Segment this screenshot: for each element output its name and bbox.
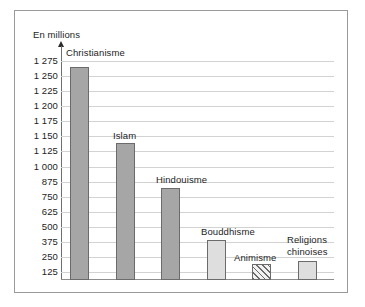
gridline-250	[61, 257, 334, 258]
bar-hindouisme[interactable]	[161, 188, 180, 280]
x-axis-line	[61, 279, 334, 280]
y-tick-label-250: 250	[2, 251, 58, 262]
y-tick-label-1200: 1 200	[2, 100, 58, 111]
gridline-1275	[61, 61, 334, 62]
y-tick-label-125: 125	[2, 266, 58, 277]
y-tick-label-875: 875	[2, 176, 58, 187]
bar-religions-chinoises[interactable]	[298, 261, 317, 280]
bar-label-hindouisme: Hindouisme	[156, 174, 207, 185]
gridline-1225	[61, 91, 334, 92]
bar-animisme[interactable]	[252, 264, 271, 280]
y-tick-label-750: 750	[2, 191, 58, 202]
y-tick-label-1150: 1 150	[2, 130, 58, 141]
y-tick-label-1225: 1 225	[2, 85, 58, 96]
y-tick-label-1000: 1 000	[2, 161, 58, 172]
gridline-1175	[61, 121, 334, 122]
gridline-500	[61, 227, 334, 228]
chart-canvas: En millions 1 275 1 250 1 225 1 200 1 17…	[0, 0, 365, 307]
bar-bouddhisme[interactable]	[207, 240, 226, 280]
y-tick-label-1275: 1 275	[2, 55, 58, 66]
y-tick-label-1250: 1 250	[2, 70, 58, 81]
bar-label-religions-chinoises-line2: chinoises	[287, 246, 328, 257]
y-tick-label-1175: 1 175	[2, 115, 58, 126]
gridline-125	[61, 272, 334, 273]
y-axis-line	[61, 46, 62, 280]
gridline-1150	[61, 136, 334, 137]
bar-label-christianisme: Christianisme	[66, 47, 125, 58]
y-tick-label-500: 500	[2, 221, 58, 232]
y-axis-title: En millions	[33, 29, 80, 40]
gridline-1200	[61, 106, 334, 107]
bar-islam[interactable]	[116, 143, 135, 280]
gridline-1000	[61, 167, 334, 168]
y-tick-label-625: 625	[2, 206, 58, 217]
y-tick-label-1125: 1 125	[2, 145, 58, 156]
bar-label-bouddhisme: Bouddhisme	[201, 226, 255, 237]
gridline-1250	[61, 76, 334, 77]
y-tick-label-375: 375	[2, 236, 58, 247]
bar-label-animisme: Animisme	[234, 252, 277, 263]
gridline-625	[61, 212, 334, 213]
bar-label-religions-chinoises-line1: Religions	[287, 234, 327, 245]
bar-christianisme[interactable]	[70, 67, 89, 280]
gridline-1125	[61, 151, 334, 152]
bar-label-islam: Islam	[113, 130, 136, 141]
gridline-750	[61, 197, 334, 198]
